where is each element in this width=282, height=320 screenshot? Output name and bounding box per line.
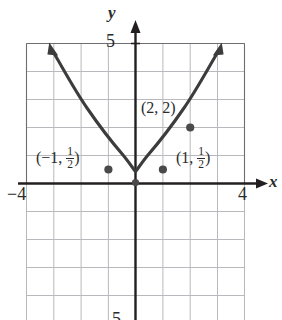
x-axis-label: x	[269, 172, 278, 192]
point-label-right-open: (1,	[176, 149, 197, 166]
x-tick-label-neg4: −4	[7, 184, 26, 205]
point-label-left-close: )	[74, 149, 79, 166]
x-axis-arrowhead	[256, 179, 268, 189]
point-label-left-fraction: 12	[66, 146, 74, 170]
y-tick-label-neg5-clipped: 5	[112, 309, 121, 320]
fraction-denominator: 2	[66, 159, 74, 171]
point-label-upper: (2, 2)	[141, 99, 176, 117]
parabola-right-arrowhead	[213, 43, 224, 56]
point-1-half	[159, 165, 167, 173]
point-label-left-open: (−1,	[36, 149, 66, 166]
fraction-numerator: 1	[66, 146, 74, 159]
graph-figure: y x 5 −4 4 5 (−1, 12) (1, 12) (2, 2)	[0, 0, 282, 320]
fraction-denominator: 2	[197, 159, 205, 171]
point-2-2	[186, 123, 194, 131]
point-neg1-half	[104, 165, 112, 173]
y-axis-label: y	[108, 3, 116, 23]
x-axis	[18, 179, 268, 189]
parabola-left-arrowhead	[47, 43, 58, 56]
point-label-left: (−1, 12)	[36, 146, 79, 170]
point-label-right-close: )	[205, 149, 210, 166]
point-label-right-fraction: 12	[197, 146, 205, 170]
point-origin	[132, 179, 139, 186]
x-tick-label-4: 4	[238, 184, 247, 205]
fraction-numerator: 1	[197, 146, 205, 159]
y-tick-label-5: 5	[106, 31, 115, 52]
point-label-right: (1, 12)	[176, 146, 210, 170]
y-axis-arrowhead	[131, 20, 141, 33]
